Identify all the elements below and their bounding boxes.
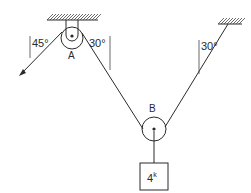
hatch-mark [80,14,86,20]
hatch-mark [74,14,80,20]
hatch-mark [65,14,71,20]
ceiling-support-a [47,14,101,20]
hatch-mark [86,14,92,20]
hatch-mark [218,18,224,24]
hatch-mark [95,14,101,20]
hatch-mark [68,14,74,20]
hatch-mark [53,14,59,20]
pulley-diagram: A 45° 30° B 30° 4k [0,0,251,193]
hatch-mark [233,18,239,24]
pulley-a-bracket [66,20,78,41]
hatch-mark [56,14,62,20]
hatch-mark [89,14,95,20]
hatch-mark [224,18,230,24]
hatch-mark [239,18,245,24]
hatch-mark [59,14,65,20]
hatch-mark [230,18,236,24]
hatch-mark [83,14,89,20]
hatch-mark [50,14,56,20]
angle-label-45: 45° [32,37,49,49]
hatch-mark [236,18,242,24]
hatch-mark [227,18,233,24]
rope-b-to-anchor [165,24,228,127]
pulley-a-label: A [68,50,75,61]
pulley-b-label: B [149,103,156,114]
hatch-mark [92,14,98,20]
ceiling-support-right [218,18,245,24]
angle-label-30-a: 30° [89,37,106,49]
hatch-mark [62,14,68,20]
pulley-a [61,27,83,49]
hatch-mark [47,14,53,20]
load-label: 4k [147,171,157,184]
hatch-mark [221,18,227,24]
hatch-mark [71,14,77,20]
hatch-mark [77,14,83,20]
angle-label-30-b: 30° [201,40,218,52]
